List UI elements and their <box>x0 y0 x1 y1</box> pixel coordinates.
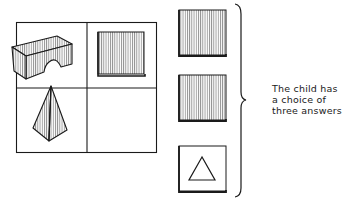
curly-brace-icon <box>235 4 246 197</box>
square-tile-icon <box>98 32 145 76</box>
pyramid-icon <box>33 86 67 141</box>
answer-option-1[interactable] <box>179 10 226 56</box>
caption-line-2: a choice of <box>272 94 342 105</box>
caption-line-3: three answers <box>272 105 342 116</box>
answer-option-3[interactable] <box>179 146 226 192</box>
answer-option-2[interactable] <box>179 75 226 121</box>
caption-line-1: The child has <box>272 83 342 94</box>
caption-text: The child has a choice of three answers <box>272 83 342 116</box>
arch-block-icon <box>12 36 72 79</box>
